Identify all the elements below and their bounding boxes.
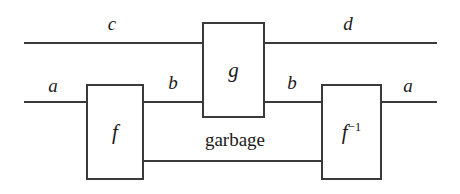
wire-label-c: c (97, 14, 127, 33)
wire-label-b-right: b (277, 73, 307, 92)
wire-top-right-d (265, 42, 437, 44)
wire-garbage (144, 160, 321, 162)
wire-mid-b-right (265, 101, 321, 103)
wire-mid-a-right (382, 101, 437, 103)
wire-label-a-right: a (393, 76, 423, 95)
gate-label-f: f (112, 122, 118, 143)
wire-label-b-left: b (158, 73, 188, 92)
gate-label-g: g (228, 60, 239, 81)
string-diagram-canvas: f g f−1 c d a b b a garbage (0, 0, 460, 194)
gate-label-f-inverse: f−1 (342, 122, 362, 143)
gate-box-f-inverse[interactable]: f−1 (321, 84, 382, 180)
wire-label-a-left: a (38, 76, 68, 95)
gate-box-f[interactable]: f (86, 84, 144, 180)
wire-label-d: d (333, 14, 363, 33)
gate-label-f-inverse-exponent: −1 (348, 119, 362, 134)
wire-top-left-c (24, 42, 202, 44)
annotation-garbage: garbage (175, 130, 295, 149)
gate-box-g[interactable]: g (202, 22, 265, 118)
wire-mid-a-left (24, 101, 86, 103)
wire-mid-b-left (144, 101, 202, 103)
